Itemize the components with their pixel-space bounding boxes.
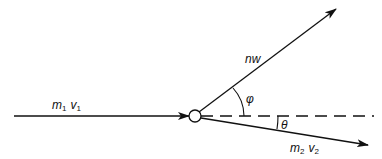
incoming-label: m1v1 [52,98,81,113]
photon-label: nw [245,52,262,66]
collision-diagram: m1v1 nw φ θ m2v2 [0,0,382,159]
phi-angle-arc [233,88,244,116]
photon-momentum-arrow [199,9,336,112]
theta-label: θ [281,118,288,132]
theta-angle-arc [277,116,278,129]
phi-label: φ [246,92,254,106]
outgoing-label: m2v2 [290,141,319,156]
